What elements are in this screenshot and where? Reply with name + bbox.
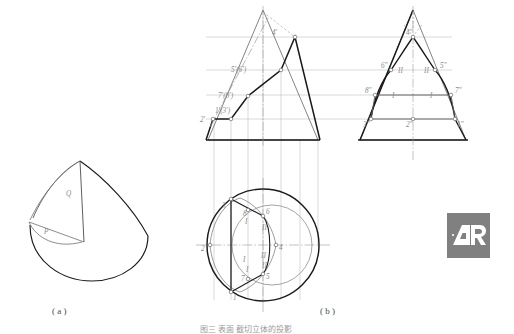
side-cut-left-riser — [371, 95, 375, 119]
top-tick-mid-left: I — [242, 256, 246, 264]
side-cut-right-riser — [451, 95, 455, 119]
logo-letter-a — [453, 225, 466, 245]
side-label-1: 1" — [457, 121, 465, 129]
top-view: 3 8 6 2 4 7 5 1 I II I II I II — [196, 178, 332, 312]
top-point-7 — [246, 277, 250, 281]
ar-logo-glyph — [447, 213, 490, 258]
front-point-56 — [279, 68, 283, 72]
caption-a: ( a ) — [52, 306, 67, 316]
front-point-13 — [229, 117, 233, 121]
top-tick-7: I — [245, 266, 249, 274]
front-view: 4' 5'(6') 7'(8') 1'(3') 2' — [200, 6, 320, 146]
cone-right-silhouette — [80, 161, 148, 236]
front-cut-solid-outline — [213, 37, 320, 140]
top-label-8: 8 — [243, 210, 247, 218]
side-tick-upper-left: II — [397, 67, 403, 75]
side-point-5 — [433, 68, 437, 72]
front-label-78: 7'(8') — [218, 92, 234, 100]
top-tick-8: I — [244, 218, 248, 226]
top-label-5: 5 — [266, 273, 270, 281]
side-point-7 — [449, 93, 453, 97]
top-point-5 — [261, 272, 265, 276]
top-label-4: 4 — [279, 244, 283, 252]
front-label-56: 5'(6') — [231, 66, 247, 74]
caption-b: ( b ) — [320, 306, 335, 316]
ar-logo-watermark — [447, 213, 490, 258]
logo-letter-r — [471, 225, 486, 245]
top-point-3 — [229, 197, 233, 201]
top-label-1: 1 — [233, 294, 237, 302]
cone-pictorial: Q P — [29, 161, 148, 281]
orthographic-projection-drawing: Q P — [0, 0, 514, 334]
side-label-7: 7" — [455, 87, 463, 95]
top-tick-6: II — [261, 224, 267, 232]
top-tick-5: II — [261, 262, 267, 270]
top-label-2: 2 — [201, 245, 205, 253]
top-label-3: 3 — [221, 202, 226, 210]
side-label-4: 4" — [406, 29, 414, 37]
side-point-6 — [389, 68, 393, 72]
front-point-4 — [293, 35, 297, 39]
side-view: 4" 6" 5" 8" 7" 3" 2" 1" II II I I — [358, 6, 468, 160]
side-point-8 — [373, 93, 377, 97]
front-apex-dashed — [263, 12, 295, 37]
front-label-13: 1'(3') — [215, 107, 231, 115]
logo-accent-dot — [452, 234, 454, 236]
technical-drawing-figure: Q P — [0, 0, 514, 334]
side-tick-upper-right: II — [423, 67, 429, 75]
label-q-plane: Q — [66, 190, 72, 198]
figure-title: 图三 表面 截切立体的投影 — [200, 324, 292, 334]
side-label-5: 5" — [440, 62, 448, 70]
front-label-4: 4' — [272, 29, 278, 37]
top-label-6: 6 — [266, 208, 270, 216]
logo-letter-a-stem — [466, 225, 470, 245]
side-tick-lower-right: I — [429, 92, 433, 100]
cut-plane-q-left-edge — [30, 161, 80, 220]
top-point-4 — [274, 243, 278, 247]
front-point-78 — [246, 94, 250, 98]
side-label-8: 8" — [365, 87, 373, 95]
side-point-3 — [369, 117, 373, 121]
side-hyperbola — [371, 37, 455, 119]
side-label-6: 6" — [381, 62, 389, 70]
top-tick-mid-right: II — [260, 252, 266, 260]
front-label-2: 2' — [200, 116, 206, 124]
side-label-3: 3" — [362, 121, 371, 129]
p-q-intersection-chord — [29, 222, 84, 242]
label-p-plane: P — [43, 228, 49, 236]
side-tick-lower-left: I — [391, 92, 395, 100]
front-point-2 — [211, 117, 215, 121]
top-point-8 — [246, 208, 250, 212]
top-point-2 — [208, 243, 212, 247]
top-label-7: 7 — [241, 275, 245, 283]
side-label-2: 2" — [406, 121, 414, 129]
cut-plane-q-right-edge — [80, 161, 84, 242]
side-apex-dashed-right — [413, 25, 422, 36]
top-point-6 — [261, 214, 265, 218]
cone-left-silhouette — [33, 161, 80, 218]
